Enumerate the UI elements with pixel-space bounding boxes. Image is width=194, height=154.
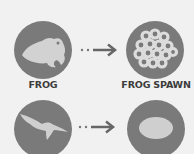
bird-circle xyxy=(14,100,72,154)
frog-circle xyxy=(14,21,72,79)
frog-spawn-label: FROG SPAWN xyxy=(118,79,194,90)
egg-icon xyxy=(127,100,185,154)
frog-icon xyxy=(14,21,72,79)
dotted-arrow-icon xyxy=(78,120,118,134)
egg-circle xyxy=(127,100,185,154)
frog-spawn-icon xyxy=(126,21,184,79)
bird-icon xyxy=(14,100,72,154)
dotted-arrow-icon xyxy=(80,43,120,57)
frog-spawn-circle xyxy=(126,21,184,79)
frog-label: FROG xyxy=(14,79,72,90)
